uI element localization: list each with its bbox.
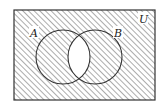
set-b-label: B: [113, 27, 122, 40]
universe-label: U: [139, 13, 149, 26]
venn-diagram: A B U: [0, 0, 162, 107]
set-a-label: A: [29, 27, 38, 40]
